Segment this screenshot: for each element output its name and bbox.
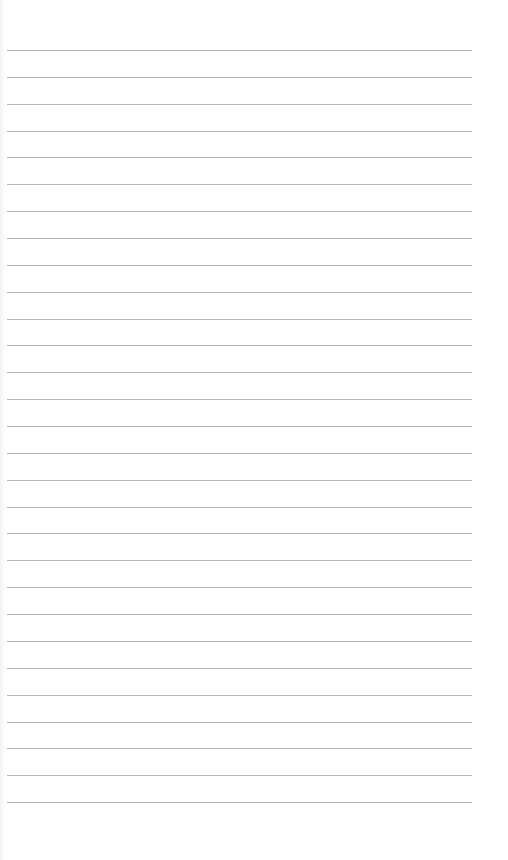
ruled-line: [7, 77, 472, 78]
ruled-line: [7, 641, 472, 642]
ruled-line: [7, 157, 472, 158]
ruled-line: [7, 775, 472, 776]
ruled-line: [7, 131, 472, 132]
ruled-line: [7, 426, 472, 427]
ruled-line: [7, 587, 472, 588]
ruled-line: [7, 533, 472, 534]
ruled-line: [7, 722, 472, 723]
ruled-line: [7, 238, 472, 239]
ruled-line: [7, 507, 472, 508]
page-edge-shadow: [0, 0, 5, 860]
ruled-line: [7, 560, 472, 561]
ruled-line: [7, 184, 472, 185]
ruled-line: [7, 265, 472, 266]
ruled-line: [7, 399, 472, 400]
ruled-line: [7, 802, 472, 803]
ruled-line: [7, 292, 472, 293]
ruled-line: [7, 319, 472, 320]
ruled-line: [7, 453, 472, 454]
ruled-line: [7, 50, 472, 51]
ruled-line: [7, 104, 472, 105]
ruled-line: [7, 668, 472, 669]
lined-paper-page: [0, 0, 508, 860]
ruled-line: [7, 480, 472, 481]
ruled-line: [7, 748, 472, 749]
ruled-line: [7, 372, 472, 373]
ruled-line: [7, 345, 472, 346]
ruled-line: [7, 614, 472, 615]
ruled-line: [7, 211, 472, 212]
ruled-line: [7, 695, 472, 696]
